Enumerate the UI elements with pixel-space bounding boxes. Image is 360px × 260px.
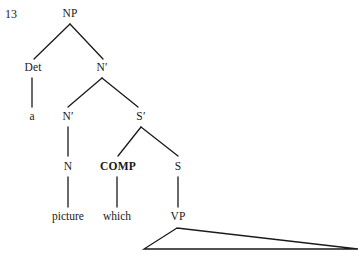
node-np: NP — [62, 8, 77, 20]
branch-np-det — [34, 24, 70, 59]
node-nbar2: N′ — [62, 111, 73, 123]
vp-expansion-triangle — [144, 228, 358, 249]
node-n: N — [64, 161, 73, 173]
syntax-tree-figure: 13 NPDetN′aN′S′NCOMPSpicturewhichVP — [0, 0, 360, 260]
branch-np-nbar1 — [70, 24, 103, 59]
node-nbar1: N′ — [96, 62, 107, 74]
terminal-which: which — [103, 211, 131, 223]
node-s: S — [175, 161, 182, 173]
branch-nbar1-nbar2 — [68, 78, 102, 107]
branch-sbar-comp — [118, 127, 141, 156]
branch-sbar-s — [141, 127, 178, 156]
node-comp: COMP — [100, 161, 136, 173]
node-det: Det — [24, 62, 41, 74]
branch-nbar1-sbar — [102, 78, 138, 107]
terminal-picture: picture — [52, 211, 84, 223]
terminal-a: a — [29, 111, 34, 123]
node-sbar: S′ — [136, 111, 145, 123]
node-vp: VP — [170, 211, 185, 223]
